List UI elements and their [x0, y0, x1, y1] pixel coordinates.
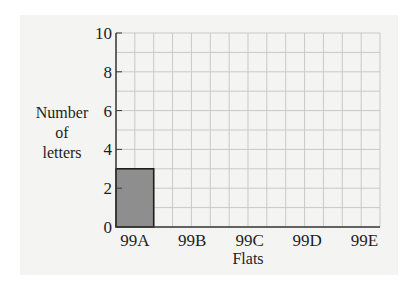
- x-tick-label: 99D: [292, 231, 321, 250]
- y-tick-label: 0: [104, 218, 113, 237]
- y-axis-title-line-2: of: [55, 124, 69, 141]
- y-tick-label: 10: [95, 24, 112, 43]
- x-axis-title: Flats: [232, 250, 263, 267]
- x-tick-label: 99E: [351, 231, 378, 250]
- x-tick-label: 99C: [236, 231, 264, 250]
- bar-99A: [116, 169, 154, 227]
- grid-lines: [116, 33, 380, 227]
- y-axis-title-line-3: letters: [42, 144, 81, 161]
- y-tick-label: 2: [104, 179, 113, 198]
- x-tick-label: 99B: [178, 231, 206, 250]
- y-tick-labels: 0246810: [95, 24, 113, 237]
- y-tick-label: 4: [104, 140, 113, 159]
- bars: [116, 169, 154, 227]
- y-tick-label: 6: [104, 102, 113, 121]
- x-tick-labels: 99A99B99C99D99E: [120, 231, 378, 250]
- y-axis-title-line-1: Number: [36, 104, 89, 121]
- y-tick-label: 8: [104, 63, 113, 82]
- x-tick-label: 99A: [120, 231, 150, 250]
- bar-chart: 0246810 99A99B99C99D99E Flats Number of …: [0, 0, 416, 288]
